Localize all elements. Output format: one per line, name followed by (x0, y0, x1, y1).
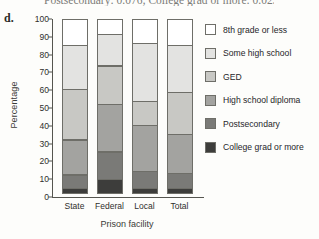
y-axis-tick-mark (48, 90, 52, 91)
bar-segment (132, 19, 158, 44)
chart-legend: 8th grade or lessSome high schoolGEDHigh… (205, 18, 317, 159)
bar-segment (97, 104, 123, 152)
y-axis-tick-mark (48, 19, 52, 20)
legend-swatch-icon (205, 95, 216, 106)
bar-segment (132, 188, 158, 193)
bar-segment (62, 19, 88, 46)
bar-segment (62, 140, 88, 176)
y-axis-tick-mark (48, 179, 52, 180)
bar-segment (132, 125, 158, 171)
part-label: d. (4, 11, 14, 26)
bar-segment (97, 34, 123, 66)
legend-label: College grad or more (223, 142, 304, 152)
bar-segment (62, 89, 88, 141)
bar-segment (132, 43, 158, 102)
legend-item: Some high school (205, 42, 317, 66)
y-axis-tick-mark (48, 197, 52, 198)
y-axis-tick-mark (48, 108, 52, 109)
y-axis-tick-mark (48, 54, 52, 55)
stacked-bar (167, 19, 193, 197)
bar-segment (62, 45, 88, 90)
x-axis-line (52, 197, 204, 198)
legend-label: High school diploma (223, 95, 300, 105)
bar-segment (167, 19, 193, 46)
bar-segment (167, 45, 193, 93)
plot-area: 0102030405060708090100 StateFederalLocal… (55, 19, 195, 197)
y-axis-tick-mark (48, 36, 52, 37)
bar-segment (97, 66, 123, 105)
bar-segment (62, 175, 88, 189)
y-axis-tick-mark (48, 125, 52, 126)
legend-item: High school diploma (205, 89, 317, 113)
bar-segment (167, 134, 193, 173)
bar-segment (132, 101, 158, 126)
bar-segment (167, 92, 193, 135)
stacked-bar (62, 19, 88, 197)
legend-swatch-icon (205, 118, 216, 129)
bar-segment (97, 19, 123, 35)
x-axis-label: Total (157, 201, 203, 211)
legend-item: College grad or more (205, 136, 317, 160)
bar-segment (97, 152, 123, 180)
bar-segment (62, 188, 88, 193)
bar-segment (167, 188, 193, 193)
y-axis-tick-mark (48, 161, 52, 162)
y-axis-tick-mark (48, 72, 52, 73)
legend-label: 8th grade or less (223, 25, 287, 35)
y-axis-tick-label: 100 (35, 14, 49, 24)
y-axis-tick-mark (48, 143, 52, 144)
bar-segment (132, 171, 158, 189)
legend-item: Postsecondary (205, 112, 317, 136)
legend-label: Postsecondary (223, 119, 280, 129)
stacked-bar (132, 19, 158, 197)
legend-swatch-icon (205, 24, 216, 35)
x-axis-title: Prison facility (47, 219, 207, 229)
legend-swatch-icon (205, 48, 216, 59)
legend-item: 8th grade or less (205, 18, 317, 42)
legend-label: Some high school (223, 48, 291, 58)
bar-segment (167, 173, 193, 189)
legend-swatch-icon (205, 142, 216, 153)
y-axis-title: Percentage (9, 60, 19, 150)
legend-swatch-icon (205, 71, 216, 82)
legend-item: GED (205, 65, 317, 89)
legend-label: GED (223, 72, 242, 82)
cut-off-text-fragment: Postsecondary: 0.076; College grad or mo… (44, 0, 274, 6)
y-axis-line (52, 19, 53, 197)
chart-figure: Postsecondary: 0.076; College grad or mo… (0, 0, 319, 239)
stacked-bar (97, 19, 123, 197)
bar-segment (97, 179, 123, 193)
